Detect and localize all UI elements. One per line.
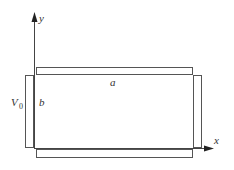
left-plate (26, 76, 34, 148)
bottom-plate (37, 150, 193, 158)
height-label: b (39, 96, 45, 108)
y-axis-arrow-icon (32, 12, 38, 22)
right-plate (194, 76, 202, 148)
potential-label: V (11, 96, 19, 108)
x-axis-arrow-icon (204, 146, 214, 152)
x-axis-label: x (213, 134, 219, 146)
y-axis-label: y (38, 12, 44, 24)
boundary-value-diagram: y x a b V 0 (0, 0, 234, 170)
width-label: a (110, 76, 116, 88)
top-plate (37, 68, 193, 75)
potential-subscript: 0 (19, 102, 23, 111)
